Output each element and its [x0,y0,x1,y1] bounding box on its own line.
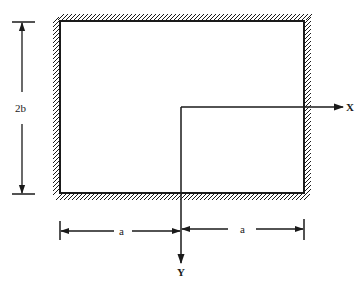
x-axis-label: X [346,101,354,113]
left-half-width-dimension: a [60,221,180,240]
height-dimension: 2b [12,22,35,194]
y-axis-label: Y [177,266,185,278]
left-half-width-label: a [119,225,124,237]
bottom-edge-hatching [56,194,310,200]
right-edge-hatching [305,17,311,195]
right-half-width-label: a [240,223,245,235]
clamped-plate-diagram: X Y 2b a a [0,0,363,288]
height-dimension-label: 2b [15,102,27,114]
top-edge-hatching [58,14,312,20]
right-half-width-dimension: a [182,219,304,240]
left-edge-hatching [53,17,59,195]
